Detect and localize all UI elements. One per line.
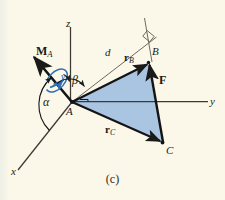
point-b-label: B: [152, 46, 159, 57]
distance-d-label: d: [105, 47, 111, 58]
axis-x-line: [18, 102, 72, 170]
vector-moment-ma-label: MA: [36, 45, 53, 59]
vector-rb-label: rB: [124, 52, 134, 65]
plane-abc-shaded-region: [72, 63, 163, 143]
figure-caption: (c): [0, 172, 225, 187]
point-c-dot: [161, 141, 165, 145]
angle-beta-label: β: [72, 74, 78, 86]
angle-alpha-label: α: [43, 96, 49, 108]
point-a-label: A: [66, 106, 73, 117]
vector-diagram-canvas: [0, 0, 225, 200]
figure-panel-c: z y x A B C d MA rB rC F α β γ (c): [0, 0, 225, 200]
vector-moment-ma-symbol: M: [36, 44, 47, 58]
point-c-label: C: [166, 145, 173, 156]
vector-f-label: F: [159, 74, 166, 86]
vector-rc-label: rC: [105, 124, 115, 137]
axis-y-label: y: [210, 96, 215, 107]
vector-rc-subscript: C: [110, 128, 115, 137]
axis-z-label: z: [66, 18, 70, 29]
vector-moment-ma-subscript: A: [47, 49, 52, 59]
angle-gamma-label: γ: [61, 71, 65, 82]
point-b-dot: [147, 61, 150, 64]
vector-rb-subscript: B: [129, 56, 134, 65]
